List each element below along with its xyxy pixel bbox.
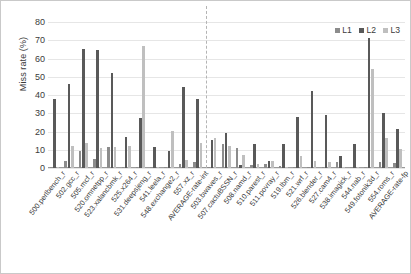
bar-l2 <box>382 113 385 168</box>
bar-l2 <box>168 151 171 168</box>
chart-legend: L1L2L3 <box>335 25 400 35</box>
bar-group <box>219 22 233 168</box>
y-tick-label: 10 <box>23 145 45 155</box>
legend-item-l3[interactable]: L3 <box>383 25 400 35</box>
bar-group <box>248 22 262 168</box>
legend-item-l2[interactable]: L2 <box>359 25 376 35</box>
bar-l3 <box>100 148 103 168</box>
bar-l1 <box>64 161 67 168</box>
bar-group <box>305 22 319 168</box>
bar-group <box>77 22 91 168</box>
y-tick-label: 70 <box>23 35 45 45</box>
bar-l2 <box>68 84 71 168</box>
bar-group <box>62 22 76 168</box>
bar-l3 <box>328 162 331 168</box>
bar-l3 <box>157 167 160 168</box>
bar-l2 <box>82 49 85 168</box>
bar-l2 <box>196 99 199 168</box>
bar-l1 <box>107 147 110 168</box>
bar-l3 <box>214 138 217 168</box>
legend-swatch-icon <box>335 28 340 33</box>
bar-l1 <box>393 163 396 168</box>
legend-item-l1[interactable]: L1 <box>335 25 352 35</box>
bar-l2 <box>353 144 356 168</box>
bar-l3 <box>357 167 360 168</box>
bar-series-container <box>48 22 405 168</box>
bar-l3 <box>128 146 131 168</box>
bar-l1 <box>293 167 296 168</box>
bar-l1 <box>336 162 339 168</box>
bar-group <box>234 22 248 168</box>
bar-l2 <box>125 137 128 168</box>
bar-l2 <box>339 156 342 168</box>
bar-l3 <box>200 143 203 168</box>
bar-l2 <box>239 165 242 168</box>
x-axis-tick-labels: 500.perlbench_r502.gcc_r505.mcf_r520.omn… <box>48 169 405 274</box>
bar-l2 <box>139 118 142 168</box>
y-tick-label: 50 <box>23 72 45 82</box>
bar-l2 <box>368 38 371 168</box>
bar-l1 <box>207 167 210 168</box>
bar-l3 <box>57 167 60 168</box>
bar-l1 <box>250 165 253 168</box>
legend-swatch-icon <box>383 28 388 33</box>
bar-l3 <box>271 161 274 168</box>
bar-group <box>119 22 133 168</box>
bar-l1 <box>193 162 196 168</box>
legend-swatch-icon <box>359 28 364 33</box>
bar-l3 <box>85 143 88 168</box>
bar-l3 <box>114 147 117 168</box>
bar-l1 <box>350 167 353 168</box>
bar-l3 <box>300 156 303 168</box>
bar-group <box>276 22 290 168</box>
bar-group <box>134 22 148 168</box>
plot-area <box>48 22 405 168</box>
bar-l1 <box>364 167 367 168</box>
chart-figure: Miss rate (%) 01020304050607080 500.perl… <box>0 0 411 274</box>
bar-l1 <box>264 164 267 168</box>
bar-group <box>291 22 305 168</box>
bar-l2 <box>153 147 156 168</box>
bar-l3 <box>242 155 245 168</box>
bar-l2 <box>253 144 256 168</box>
bar-l2 <box>211 140 214 168</box>
bar-l1 <box>279 166 282 168</box>
bar-l2 <box>282 144 285 168</box>
bar-group <box>177 22 191 168</box>
bar-l1 <box>179 164 182 168</box>
bar-l2 <box>225 133 228 168</box>
bar-l1 <box>164 167 167 168</box>
y-tick-label: 30 <box>23 108 45 118</box>
y-tick-label: 20 <box>23 127 45 137</box>
bar-group <box>391 22 405 168</box>
bar-l2 <box>311 91 314 168</box>
bar-l3 <box>142 46 145 168</box>
bar-l2 <box>111 73 114 168</box>
bar-l3 <box>228 146 231 168</box>
bar-l1 <box>93 159 96 168</box>
bar-group <box>191 22 205 168</box>
bar-group <box>262 22 276 168</box>
bar-l2 <box>96 50 99 168</box>
bar-l2 <box>268 161 271 168</box>
bar-l1 <box>307 167 310 168</box>
bar-l3 <box>285 167 288 168</box>
legend-label: L2 <box>366 25 376 35</box>
bar-l3 <box>257 164 260 168</box>
bar-l3 <box>171 131 174 168</box>
bar-l3 <box>371 69 374 168</box>
bar-l3 <box>71 146 74 168</box>
bar-group <box>148 22 162 168</box>
bar-l1 <box>150 167 153 168</box>
legend-label: L1 <box>342 25 352 35</box>
bar-l1 <box>122 167 125 168</box>
bar-l3 <box>342 167 345 168</box>
bar-group <box>376 22 390 168</box>
bar-group <box>334 22 348 168</box>
y-tick-label: 40 <box>23 90 45 100</box>
bar-group <box>205 22 219 168</box>
bar-group <box>362 22 376 168</box>
bar-group <box>48 22 62 168</box>
bar-l3 <box>399 149 402 168</box>
bar-l1 <box>222 144 225 168</box>
